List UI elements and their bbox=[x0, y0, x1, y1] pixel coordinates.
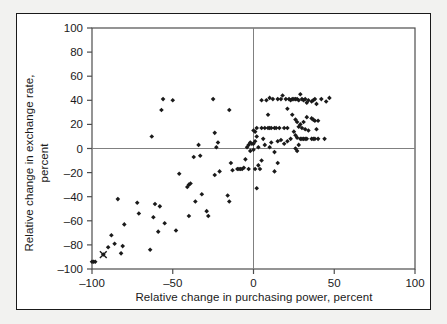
y-tick-label: –100 bbox=[57, 263, 83, 275]
y-tick-label: –20 bbox=[64, 167, 83, 179]
data-point bbox=[149, 134, 154, 139]
data-point bbox=[261, 137, 266, 142]
data-point bbox=[174, 228, 179, 233]
data-point bbox=[314, 127, 319, 132]
data-point bbox=[116, 197, 121, 202]
special-marker-x bbox=[100, 251, 107, 258]
data-point bbox=[170, 98, 175, 103]
data-point bbox=[285, 126, 290, 131]
data-point bbox=[277, 126, 282, 131]
data-point bbox=[217, 169, 222, 174]
y-tick-label: 20 bbox=[70, 118, 83, 130]
data-point bbox=[263, 143, 268, 148]
data-point bbox=[269, 140, 274, 145]
data-point bbox=[200, 192, 205, 197]
data-point bbox=[191, 155, 196, 160]
y-tick-label: 40 bbox=[70, 94, 83, 106]
data-point bbox=[319, 97, 324, 102]
data-point bbox=[227, 199, 232, 204]
data-point bbox=[327, 96, 332, 101]
data-point bbox=[112, 241, 117, 246]
data-point bbox=[148, 247, 153, 252]
data-point bbox=[109, 233, 114, 238]
y-tick-label: 60 bbox=[70, 70, 83, 82]
data-point bbox=[290, 112, 295, 117]
data-point bbox=[285, 139, 290, 144]
data-point bbox=[322, 137, 327, 142]
data-point bbox=[153, 202, 158, 207]
x-tick-label: –100 bbox=[79, 277, 105, 289]
data-point bbox=[161, 97, 166, 102]
y-axis-label: Relative change in exchange rate, percen… bbox=[22, 63, 52, 263]
data-point bbox=[156, 229, 161, 234]
data-point bbox=[206, 214, 211, 219]
tick-labels-group: –100–80–60–40–20020406080100–100–5005010… bbox=[57, 22, 424, 289]
data-point bbox=[204, 209, 209, 214]
data-point bbox=[135, 200, 140, 205]
data-point bbox=[193, 199, 198, 204]
data-point bbox=[304, 115, 309, 120]
data-point bbox=[196, 143, 201, 148]
data-point bbox=[229, 161, 234, 166]
data-point bbox=[177, 172, 182, 177]
data-point bbox=[230, 168, 235, 173]
data-point bbox=[246, 167, 251, 172]
data-point bbox=[151, 215, 156, 220]
scatter-plot-svg: –100–80–60–40–20020406080100–100–5005010… bbox=[0, 0, 447, 324]
data-point bbox=[158, 204, 163, 209]
y-tick-label: –40 bbox=[64, 191, 83, 203]
y-tick-label: 80 bbox=[70, 46, 83, 58]
figure-container: –100–80–60–40–20020406080100–100–5005010… bbox=[0, 0, 447, 324]
data-point bbox=[227, 108, 232, 113]
data-point bbox=[254, 134, 259, 139]
data-point bbox=[162, 221, 167, 226]
data-point bbox=[316, 118, 321, 123]
y-tick-label: 0 bbox=[77, 143, 83, 155]
x-tick-label: –50 bbox=[163, 277, 182, 289]
data-point bbox=[119, 251, 124, 256]
data-points-group bbox=[90, 92, 332, 264]
data-point bbox=[120, 244, 125, 249]
data-point bbox=[259, 158, 264, 163]
data-point bbox=[259, 98, 264, 103]
data-point bbox=[314, 102, 319, 107]
data-point bbox=[296, 143, 301, 148]
x-axis-label: Relative change in purchasing power, per… bbox=[92, 291, 416, 303]
y-tick-label: –60 bbox=[64, 215, 83, 227]
data-point bbox=[243, 157, 248, 162]
data-point bbox=[106, 245, 111, 250]
data-point bbox=[282, 141, 287, 146]
data-point bbox=[254, 186, 259, 191]
y-tick-label: 100 bbox=[64, 22, 83, 34]
data-point bbox=[272, 169, 277, 174]
data-point bbox=[272, 150, 277, 155]
data-point bbox=[198, 153, 203, 158]
data-point bbox=[285, 106, 290, 111]
data-point bbox=[225, 193, 230, 198]
data-point bbox=[275, 161, 280, 166]
data-point bbox=[137, 211, 142, 216]
data-point bbox=[159, 108, 164, 113]
data-point bbox=[187, 214, 192, 219]
data-point bbox=[264, 98, 269, 103]
x-tick-label: 100 bbox=[405, 277, 424, 289]
data-point bbox=[288, 137, 293, 142]
data-point bbox=[324, 99, 329, 104]
plot-wrapper: –100–80–60–40–20020406080100–100–5005010… bbox=[0, 0, 447, 324]
data-point bbox=[266, 112, 271, 117]
data-point bbox=[298, 92, 303, 97]
data-point bbox=[301, 120, 306, 125]
y-tick-label: –80 bbox=[64, 239, 83, 251]
x-tick-label: 50 bbox=[328, 277, 341, 289]
data-point bbox=[212, 131, 217, 136]
data-point bbox=[122, 222, 127, 227]
data-point bbox=[211, 97, 216, 102]
data-point bbox=[216, 140, 221, 145]
x-tick-label: 0 bbox=[250, 277, 256, 289]
data-point bbox=[212, 173, 217, 178]
data-point bbox=[316, 137, 321, 142]
